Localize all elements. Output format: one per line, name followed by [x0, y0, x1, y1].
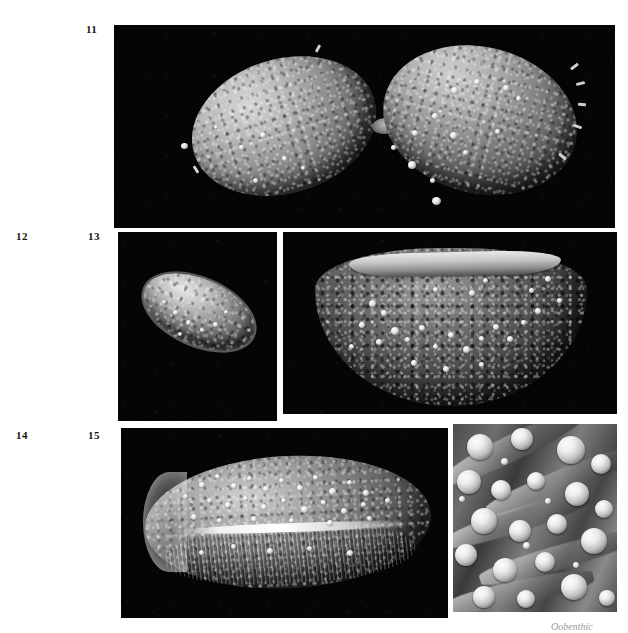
surface-spherule: [289, 518, 294, 523]
surface-spherule: [430, 178, 435, 183]
surface-spherule: [267, 548, 273, 554]
surface-spherule: [433, 287, 438, 292]
surface-spherule: [178, 332, 182, 336]
spherical-body: [565, 482, 589, 506]
surface-spherule: [313, 475, 318, 480]
spherical-body: [561, 574, 587, 600]
figure-label-12: 12: [16, 231, 28, 242]
surface-spherule: [448, 332, 454, 338]
surface-spherule: [279, 478, 284, 483]
surface-spherule: [432, 113, 438, 119]
surface-spherule: [186, 320, 191, 325]
surface-spherule: [281, 498, 286, 503]
detached-spherule: [432, 197, 441, 205]
spherical-body: [493, 558, 517, 582]
surface-spherule: [479, 362, 484, 367]
marginal-spine: [578, 103, 586, 107]
figure-label-11: 11: [86, 24, 97, 35]
spherical-body: [491, 480, 511, 500]
surface-spherule: [408, 161, 416, 169]
surface-spherule: [199, 550, 204, 555]
spherical-body: [471, 508, 497, 534]
surface-spherule: [307, 546, 312, 551]
spherical-body: [547, 514, 567, 534]
small-granule: [523, 542, 530, 549]
surface-spherule: [412, 130, 418, 136]
surface-spherule: [341, 508, 347, 514]
surface-spherule: [301, 166, 305, 170]
spherical-body: [457, 470, 481, 494]
surface-spherule: [495, 129, 500, 134]
surface-spherule: [405, 337, 410, 342]
surface-spherule: [173, 310, 178, 315]
surface-spherule: [516, 96, 521, 101]
surface-spherule: [535, 308, 541, 314]
spherical-body: [595, 500, 613, 518]
spore-bright-rim: [143, 472, 187, 572]
surface-spherule: [191, 514, 197, 520]
surface-spherule: [493, 324, 499, 330]
plate-caption: Oobenthic: [551, 622, 628, 633]
small-granule: [573, 562, 579, 568]
surface-spherule: [521, 320, 526, 325]
surface-spherule: [391, 145, 396, 150]
micrograph-plate: 11 12 13 14 15: [0, 0, 628, 633]
surface-spherule: [261, 504, 267, 510]
surface-spherule: [433, 344, 438, 349]
spherical-body: [511, 428, 533, 450]
surface-spherule: [347, 550, 353, 556]
surface-spherule: [474, 79, 480, 85]
surface-spherule: [463, 150, 468, 155]
surface-spherule: [463, 346, 470, 353]
surface-spherule: [321, 500, 326, 505]
surface-spherule: [263, 486, 269, 492]
surface-spherule: [361, 502, 366, 507]
surface-spherule: [162, 300, 166, 304]
surface-spherule: [207, 498, 212, 503]
surface-spherule: [451, 87, 458, 94]
small-granule: [459, 496, 465, 502]
surface-spherule: [199, 482, 205, 488]
surface-spherule: [545, 276, 551, 282]
surface-spherule: [443, 366, 449, 372]
surface-spherule: [183, 494, 188, 499]
small-granule: [501, 458, 508, 465]
spherical-body: [557, 436, 585, 464]
surface-spherule: [391, 327, 399, 335]
detached-spherule: [181, 143, 188, 149]
surface-spherule: [347, 480, 352, 485]
figure-label-13: 13: [88, 231, 100, 242]
spherical-body: [467, 434, 493, 460]
spherical-body: [535, 552, 555, 572]
surface-spherule: [327, 520, 333, 526]
surface-spherule: [363, 490, 369, 496]
surface-spherule: [411, 360, 417, 366]
small-granule: [545, 498, 551, 504]
spherical-body: [599, 590, 615, 606]
surface-spherule: [247, 476, 252, 481]
spherical-body: [517, 590, 535, 608]
micrograph-panel-14: [121, 428, 448, 618]
surface-spherule: [369, 300, 376, 307]
figure-label-15: 15: [88, 430, 100, 441]
surface-spherule: [469, 290, 475, 296]
spherical-body: [591, 454, 611, 474]
surface-spherule: [381, 310, 387, 316]
spherical-body: [581, 528, 607, 554]
spherical-body: [455, 544, 477, 566]
micrograph-panel-11: [114, 25, 615, 228]
surface-spherule: [359, 322, 365, 328]
surface-spherule: [301, 506, 308, 513]
surface-spherule: [243, 496, 248, 501]
surface-spherule: [200, 328, 204, 332]
surface-spherule: [282, 156, 287, 161]
spherical-body: [509, 520, 531, 542]
surface-spherule: [217, 518, 222, 523]
surface-spherule: [503, 85, 509, 91]
surface-spherule: [215, 474, 220, 479]
surface-spherule: [557, 298, 562, 303]
surface-spherule: [214, 125, 218, 129]
spherical-body: [473, 586, 495, 608]
micrograph-panel-13: [283, 232, 617, 414]
micrograph-panel-15: [453, 424, 617, 612]
